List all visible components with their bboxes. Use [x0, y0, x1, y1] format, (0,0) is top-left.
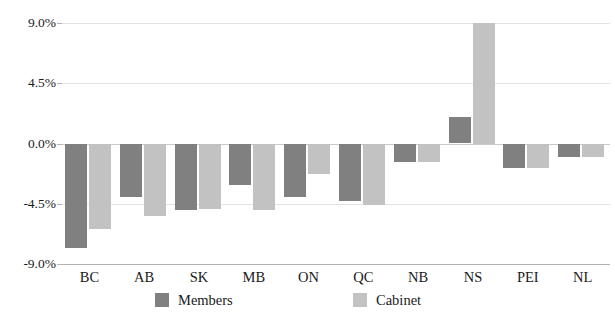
bar-ns-cabinet[interactable] [473, 23, 495, 144]
bar-nl-members[interactable] [558, 144, 580, 157]
y-tick-label: 0.0% [28, 137, 56, 151]
bar-qc-members[interactable] [339, 144, 361, 202]
bar-group [281, 23, 336, 264]
x-tick-label-qc: QC [336, 268, 391, 286]
x-tick-label-nl: NL [555, 268, 610, 286]
chart-title [72, 0, 542, 5]
plot-area [62, 23, 610, 264]
x-tick-label-pei: PEI [500, 268, 555, 286]
chart-legend: Members Cabinet [0, 292, 615, 314]
x-axis: BCABSKMBONQCNBNSPEINL [62, 266, 610, 290]
bar-mb-cabinet[interactable] [253, 144, 275, 211]
bar-mb-members[interactable] [229, 144, 251, 186]
bar-ns-members[interactable] [449, 117, 471, 144]
bar-group [226, 23, 281, 264]
legend-swatch-cabinet [353, 293, 367, 307]
bar-sk-members[interactable] [175, 144, 197, 211]
legend-label-cabinet: Cabinet [376, 292, 421, 308]
legend-swatch-members [155, 293, 169, 307]
y-tick-label: -9.0% [23, 257, 56, 271]
bar-nl-cabinet[interactable] [582, 144, 604, 157]
bar-group [446, 23, 501, 264]
bar-nb-cabinet[interactable] [418, 144, 440, 163]
bar-bc-cabinet[interactable] [89, 144, 111, 230]
bar-group [117, 23, 172, 264]
bar-on-members[interactable] [284, 144, 306, 198]
x-axis-line [62, 264, 610, 265]
bar-chart-figure: -9.0%-4.5%0.0%4.5%9.0% BCABSKMBONQCNBNSP… [0, 0, 615, 324]
bar-group [500, 23, 555, 264]
bar-ab-members[interactable] [120, 144, 142, 198]
y-tick-label: -4.5% [23, 197, 56, 211]
bar-bc-members[interactable] [65, 144, 87, 248]
x-tick-label-sk: SK [172, 268, 227, 286]
x-tick-label-ns: NS [446, 268, 501, 286]
x-tick-label-bc: BC [62, 268, 117, 286]
bar-group [336, 23, 391, 264]
bar-on-cabinet[interactable] [308, 144, 330, 175]
x-tick-label-on: ON [281, 268, 336, 286]
legend-entry-cabinet[interactable]: Cabinet [353, 292, 421, 308]
legend-label-members: Members [178, 292, 233, 308]
bar-ab-cabinet[interactable] [144, 144, 166, 216]
legend-entry-members[interactable]: Members [155, 292, 233, 308]
y-tick-label: 4.5% [28, 76, 56, 90]
x-tick-label-ab: AB [117, 268, 172, 286]
bar-pei-members[interactable] [503, 144, 525, 168]
bar-nb-members[interactable] [394, 144, 416, 163]
bar-qc-cabinet[interactable] [363, 144, 385, 206]
bar-pei-cabinet[interactable] [527, 144, 549, 168]
bars-layer [62, 23, 610, 264]
y-tick-label: 9.0% [28, 16, 56, 30]
bar-sk-cabinet[interactable] [199, 144, 221, 210]
bar-group [555, 23, 610, 264]
y-axis: -9.0%-4.5%0.0%4.5%9.0% [0, 0, 60, 324]
bar-group [62, 23, 117, 264]
bar-group [391, 23, 446, 264]
x-tick-label-mb: MB [226, 268, 281, 286]
x-tick-label-nb: NB [391, 268, 446, 286]
bar-group [172, 23, 227, 264]
